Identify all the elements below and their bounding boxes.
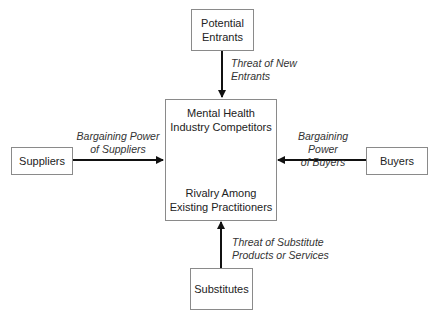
threat-new-entrants-label: Threat of New Entrants [231,57,297,83]
edge-label-line: Threat of Substitute [232,236,329,249]
industry-competitors-box: Mental Health Industry Competitors Rival… [165,99,277,221]
edge-label-line: Products or Services [232,249,329,262]
edge-label-line: Entrants [231,70,297,83]
edge-label-line: of Suppliers [76,143,160,156]
edge-label-line: Threat of New [231,57,297,70]
buyers-box: Buyers [366,147,428,175]
potential-entrants-box: Potential Entrants [191,9,254,51]
bargaining-power-suppliers-label: Bargaining Power of Suppliers [76,130,160,156]
threat-substitutes-label: Threat of Substitute Products or Service… [232,236,329,262]
substitutes-box: Substitutes [190,268,253,310]
center-title-line: Mental Health [166,106,276,120]
edge-label-line: Bargaining Power [76,130,160,143]
edge-label-line: of Buyers [282,156,364,169]
center-rivalry-line: Rivalry Among [166,186,276,200]
node-label: Potential [201,16,244,30]
suppliers-box: Suppliers [11,147,73,175]
node-label: Buyers [380,154,414,168]
edge-label-line: Bargaining Power [282,130,364,156]
center-rivalry-line: Existing Practitioners [166,200,276,214]
node-label: Entrants [202,30,243,44]
bargaining-power-buyers-label: Bargaining Power of Buyers [282,130,364,169]
node-label: Suppliers [19,154,65,168]
node-label: Substitutes [194,282,248,296]
center-title-line: Industry Competitors [166,120,276,134]
